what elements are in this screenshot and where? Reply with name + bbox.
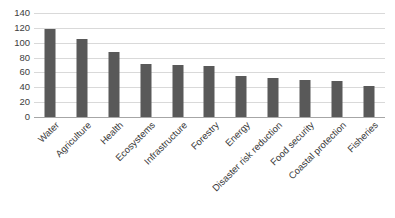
bar [76,39,87,117]
y-axis-tick-label: 120 [14,23,30,33]
y-axis-tick-label: 40 [19,83,30,93]
x-axis-tick: Health [98,120,124,146]
bar [364,86,375,117]
bar [300,80,311,117]
bar [44,29,55,117]
y-axis: 020406080100120140 [0,13,34,117]
bar-slot [34,13,66,117]
bar-chart: 020406080100120140 WaterAgricultureHealt… [0,0,395,218]
y-axis-tick-label: 60 [19,68,30,78]
bar-slot [257,13,289,117]
bar [108,52,119,117]
x-axis-tick: Coastal protection [287,120,348,181]
x-axis-tick-label: Fisheries [346,120,380,154]
x-axis-tick-label: Forestry [189,120,220,151]
bar-slot [321,13,353,117]
x-axis-tick-label: Energy [224,120,252,148]
bar-slot [162,13,194,117]
y-axis-tick-label: 80 [19,53,30,63]
x-axis-tick: Energy [224,120,252,148]
y-axis-tick-label: 0 [25,112,30,122]
x-axis-tick: Fisheries [346,120,380,154]
x-axis-tick: Water [36,120,60,144]
x-axis-tick: Forestry [189,120,220,151]
y-axis-tick-label: 140 [14,8,30,18]
bar [140,64,151,117]
bar-slot [66,13,98,117]
bars-container [34,13,385,117]
bar [204,66,215,117]
bar-slot [130,13,162,117]
x-axis-tick-label: Water [36,120,60,144]
bar-slot [225,13,257,117]
bar [268,78,279,117]
bar-slot [194,13,226,117]
bar-slot [289,13,321,117]
x-axis-tick-label: Health [98,120,124,146]
bar [332,81,343,117]
x-axis: WaterAgricultureHealthEcosystemsInfrastr… [34,118,385,218]
bar-slot [353,13,385,117]
bar [172,65,183,117]
y-axis-tick-label: 100 [14,38,30,48]
y-axis-tick-label: 20 [19,97,30,107]
x-axis-tick-label: Coastal protection [287,120,348,181]
bar-slot [98,13,130,117]
bar [236,76,247,117]
